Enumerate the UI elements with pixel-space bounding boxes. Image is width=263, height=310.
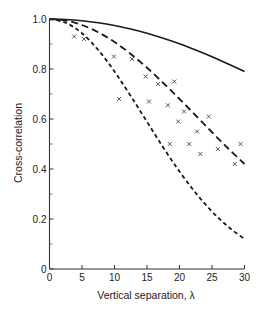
chart: 051015202530 00.20.40.60.81.0 Vertical s… xyxy=(0,0,263,310)
y-axis-label: Cross-correlation xyxy=(12,103,24,183)
cross-marker-icon xyxy=(168,142,172,146)
y-tick-label: 0.6 xyxy=(33,114,47,125)
solid-curve xyxy=(50,19,245,72)
cross-marker-icon xyxy=(72,35,76,39)
cross-marker-icon xyxy=(166,103,170,107)
cross-marker-icon xyxy=(117,97,121,101)
cross-marker-icon xyxy=(239,142,243,146)
cross-marker-icon xyxy=(207,115,211,119)
x-tick-label: 10 xyxy=(109,272,121,283)
y-tick-label: 0.4 xyxy=(33,164,47,175)
x-tick-label: 20 xyxy=(174,272,186,283)
y-axis: 00.20.40.60.81.0 xyxy=(33,14,54,275)
cross-marker-icon xyxy=(195,130,199,134)
x-tick-label: 30 xyxy=(239,272,251,283)
x-tick-label: 5 xyxy=(79,272,85,283)
cross-marker-icon xyxy=(233,162,237,166)
y-tick-label: 0 xyxy=(41,264,47,275)
x-tick-label: 0 xyxy=(47,272,53,283)
x-axis: 051015202530 xyxy=(47,265,251,283)
cross-marker-icon xyxy=(144,75,148,79)
y-tick-label: 0.8 xyxy=(33,64,47,75)
cross-marker-icon xyxy=(198,152,202,156)
x-tick-label: 15 xyxy=(141,272,153,283)
cross-marker-icon xyxy=(182,110,186,114)
cross-marker-icon xyxy=(216,147,220,151)
cross-marker-icon xyxy=(112,55,116,59)
x-tick-label: 25 xyxy=(206,272,218,283)
x-axis-label: Vertical separation, λ xyxy=(97,289,195,301)
cross-marker-icon xyxy=(82,37,86,41)
cross-marker-icon xyxy=(187,142,191,146)
cross-marker-icon xyxy=(147,100,151,104)
plot-area xyxy=(50,19,245,239)
short-dash-curve xyxy=(50,19,245,239)
cross-marker-icon xyxy=(130,57,134,61)
y-tick-label: 1.0 xyxy=(33,14,47,25)
long-dash-curve xyxy=(50,19,245,164)
cross-marker-icon xyxy=(176,120,180,124)
cross-marker-icon xyxy=(172,80,176,84)
cross-marker-icon xyxy=(156,82,160,86)
observation-markers xyxy=(72,35,242,167)
y-tick-label: 0.2 xyxy=(33,214,47,225)
